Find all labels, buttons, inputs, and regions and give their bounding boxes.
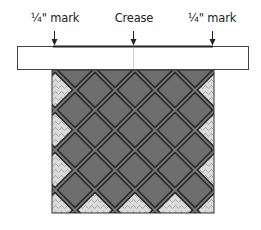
crease-arrow-icon xyxy=(131,31,137,46)
right-mark-arrow-icon xyxy=(210,31,216,46)
sashing xyxy=(0,0,261,230)
quilt-top xyxy=(0,0,261,230)
ruler-strip xyxy=(18,47,249,70)
quilt-diagram xyxy=(0,0,261,230)
left-mark-arrow-icon xyxy=(52,31,58,46)
